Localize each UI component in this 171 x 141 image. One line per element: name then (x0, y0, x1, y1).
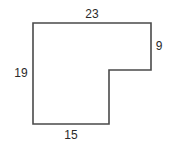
top-side-label: 23 (85, 7, 99, 21)
l-shaped-polygon (33, 23, 151, 124)
right-side-label: 9 (156, 39, 163, 53)
l-shape-diagram: 23 9 19 15 (0, 0, 171, 141)
left-side-label: 19 (14, 66, 28, 80)
bottom-side-label: 15 (64, 128, 78, 141)
